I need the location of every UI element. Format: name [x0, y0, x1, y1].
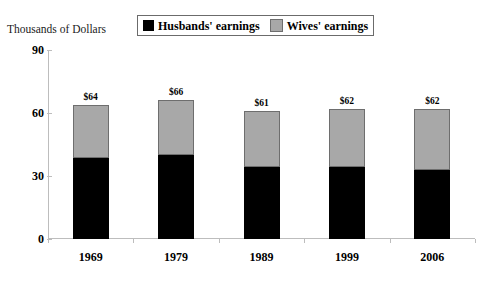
bar-segment-wives: [244, 111, 280, 167]
y-axis-tick: [47, 113, 52, 114]
bar-group: $64: [73, 105, 109, 239]
legend-entry: Wives' earnings: [270, 19, 368, 32]
legend-label: Husbands' earnings: [158, 20, 260, 32]
husbands-swatch: [143, 20, 154, 31]
x-axis-tick-label: 1999: [304, 251, 389, 263]
bar-segment-husbands: [329, 167, 365, 239]
bar-segment-husbands: [414, 170, 450, 239]
bar-segment-wives: [158, 100, 194, 155]
bar-group: $66: [158, 100, 194, 239]
x-axis-tick: [304, 239, 305, 243]
y-axis-tick: [47, 176, 52, 177]
bar-segment-husbands: [244, 167, 280, 239]
bar-segment-wives: [73, 105, 109, 158]
bar-total-label: $64: [84, 92, 98, 102]
y-axis-tick: [47, 50, 52, 51]
bar-segment-wives: [329, 109, 365, 167]
bar-segment-husbands: [158, 155, 194, 239]
x-axis-tick: [133, 239, 134, 243]
bar-total-label: $61: [254, 98, 268, 108]
bar-group: $62: [329, 109, 365, 239]
bar-total-label: $62: [340, 96, 354, 106]
x-axis-tick-label: 1989: [219, 251, 304, 263]
bar-group: $62: [414, 109, 450, 239]
y-axis-tick-label: 60: [4, 107, 44, 119]
x-axis-tick: [390, 239, 391, 243]
y-axis-tick-label: 0: [4, 233, 44, 245]
y-axis-title: Thousands of Dollars: [7, 22, 106, 36]
x-axis-tick-label: 2006: [390, 251, 475, 263]
x-axis-tick-label: 1979: [133, 251, 218, 263]
x-axis-tick: [219, 239, 220, 243]
x-axis-tick: [475, 239, 476, 243]
y-axis-tick-label: 30: [4, 170, 44, 182]
chart-legend: Husbands' earningsWives' earnings: [137, 15, 374, 36]
y-axis-tick-label: 90: [4, 44, 44, 56]
bar-total-label: $66: [169, 87, 183, 97]
plot-area: 0306090$641969$661979$611989$621999$6220…: [48, 50, 475, 239]
legend-label: Wives' earnings: [287, 20, 368, 32]
stacked-bar-chart: Thousands of Dollars Husbands' earningsW…: [0, 0, 477, 285]
x-axis-tick: [48, 239, 49, 243]
bar-total-label: $62: [425, 96, 439, 106]
wives-swatch: [270, 19, 283, 32]
bar-group: $61: [244, 111, 280, 239]
x-axis-tick-label: 1969: [48, 251, 133, 263]
bar-segment-husbands: [73, 158, 109, 239]
y-axis-line: [48, 50, 49, 239]
legend-entry: Husbands' earnings: [143, 20, 260, 32]
bar-segment-wives: [414, 109, 450, 170]
